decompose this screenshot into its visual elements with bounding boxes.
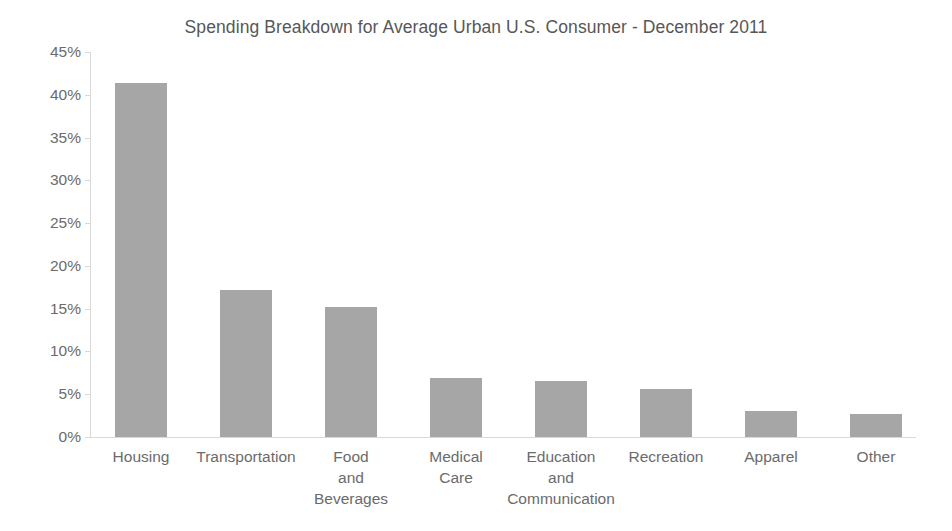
y-axis-tick-label: 35%: [50, 129, 90, 147]
bar-medical-care: [430, 378, 482, 437]
y-axis-tick-label: 40%: [50, 86, 90, 104]
bar-other: [850, 414, 902, 437]
y-axis-tick-label: 10%: [50, 342, 90, 360]
y-axis-tick-label: 0%: [59, 428, 90, 446]
x-axis-label-line: and: [486, 467, 636, 488]
x-axis-line: [90, 437, 916, 438]
bar-apparel: [745, 411, 797, 437]
x-axis-label-line: Communication: [486, 488, 636, 509]
y-axis-tick-label: 5%: [59, 385, 90, 403]
y-axis-tick-label: 15%: [50, 300, 90, 318]
y-axis-tick-label: 20%: [50, 257, 90, 275]
y-axis-tick-label: 30%: [50, 171, 90, 189]
bar-chart: Spending Breakdown for Average Urban U.S…: [0, 0, 952, 531]
bar-food-and-beverages: [325, 307, 377, 437]
x-axis-label: Other: [801, 446, 951, 467]
x-axis-label-line: Other: [801, 446, 951, 467]
plot-area: [90, 52, 915, 437]
chart-title: Spending Breakdown for Average Urban U.S…: [0, 17, 952, 38]
y-axis-tick-label: 45%: [50, 43, 90, 61]
bar-housing: [115, 83, 167, 437]
bar-education-and-communication: [535, 381, 587, 437]
y-axis-tick-label: 25%: [50, 214, 90, 232]
x-axis-label-line: Beverages: [276, 488, 426, 509]
bar-recreation: [640, 389, 692, 437]
bar-transportation: [220, 290, 272, 437]
